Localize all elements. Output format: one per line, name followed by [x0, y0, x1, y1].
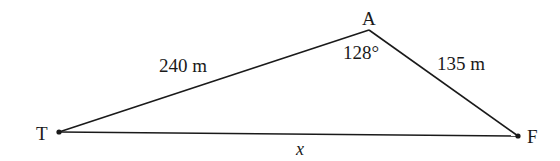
side-af: [369, 30, 518, 136]
side-ta: [59, 30, 369, 132]
side-tf-label: x: [295, 139, 304, 159]
angle-a-label: 128°: [343, 42, 379, 63]
vertex-t-label: T: [36, 123, 48, 144]
side-tf: [59, 132, 518, 136]
vertex-f-label: F: [527, 126, 538, 147]
side-ta-label: 240 m: [159, 55, 207, 76]
side-af-label: 135 m: [437, 53, 485, 74]
vertex-t-dot: [56, 129, 61, 134]
triangle-diagram: T A F 240 m 135 m x 128°: [0, 0, 560, 161]
vertex-f-dot: [515, 133, 520, 138]
vertex-a-label: A: [362, 8, 376, 29]
